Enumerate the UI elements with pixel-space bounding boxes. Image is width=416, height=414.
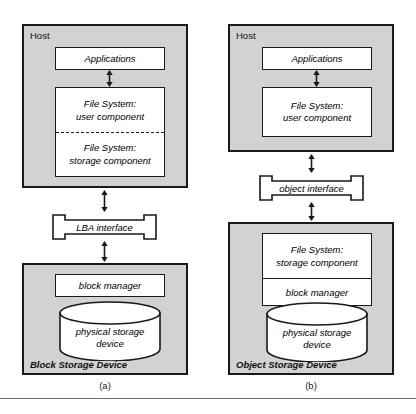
panel-b-ps-line1: physical storage <box>265 327 369 339</box>
caption-a: (a) <box>85 380 125 391</box>
panel-b-arrow-apps-to-fs <box>312 70 321 87</box>
panel-a-file-system-box: File System: user component File System:… <box>55 87 165 177</box>
panel-a-block-manager-box: block manager <box>55 274 165 297</box>
panel-b-fs-user-line2: user component <box>283 112 351 124</box>
panel-b-arrow-host-to-interface <box>307 154 316 173</box>
panel-a-file-system-storage-section: File System: storage component <box>56 133 164 176</box>
panel-a-fs-storage-line2: storage component <box>69 155 150 167</box>
panel-b-block-manager-label: block manager <box>286 287 348 298</box>
panel-a-applications-box: Applications <box>55 47 165 70</box>
panel-a-applications-label: Applications <box>84 53 135 65</box>
panel-b-physical-storage-label: physical storage device <box>265 327 369 351</box>
panel-a-arrow-apps-to-fs <box>105 70 114 87</box>
panel-b-host-title: Host <box>236 31 256 41</box>
panel-a-fs-user-line1: File System: <box>84 98 136 110</box>
bottom-rule <box>0 398 416 399</box>
panel-b-object-interface-label: object interface <box>259 175 364 201</box>
figure-canvas: Host Applications File System: user comp… <box>0 0 416 414</box>
panel-a-lba-interface-banner: LBA interface <box>52 214 157 240</box>
panel-b-fs-storage-line1: File System: <box>291 244 343 256</box>
panel-a-file-system-user-section: File System: user component <box>56 88 164 133</box>
panel-b-arrow-interface-to-device <box>307 202 316 221</box>
panel-b-object-interface-banner: object interface <box>259 175 364 201</box>
panel-a-fs-user-line2: user component <box>76 111 144 123</box>
panel-a-ps-line1: physical storage <box>58 326 162 338</box>
panel-b-applications-label: Applications <box>291 53 342 65</box>
panel-b-fs-storage-line2: storage component <box>276 257 357 269</box>
panel-b-ps-line2: device <box>265 339 369 351</box>
panel-b-fs-user-line1: File System: <box>291 100 343 112</box>
panel-a-arrow-host-to-interface <box>100 190 109 212</box>
panel-a-physical-storage-label: physical storage device <box>58 326 162 350</box>
panel-b-applications-box: Applications <box>262 47 372 70</box>
panel-b-storage-stack-box: File System: storage component block man… <box>262 233 372 306</box>
panel-b-physical-storage-cylinder: physical storage device <box>265 302 369 362</box>
panel-b-file-system-user-box: File System: user component <box>262 87 372 137</box>
panel-b-file-system-storage-section: File System: storage component <box>263 234 371 279</box>
panel-a-arrow-interface-to-device <box>100 241 109 262</box>
panel-a-fs-storage-line1: File System: <box>84 142 136 154</box>
panel-a-physical-storage-cylinder: physical storage device <box>58 301 162 361</box>
panel-a-block-manager-label: block manager <box>79 280 141 292</box>
panel-a-host-title: Host <box>30 31 50 41</box>
panel-a-lba-interface-label: LBA interface <box>52 214 157 240</box>
panel-a-ps-line2: device <box>58 338 162 350</box>
caption-b: (b) <box>291 380 331 391</box>
